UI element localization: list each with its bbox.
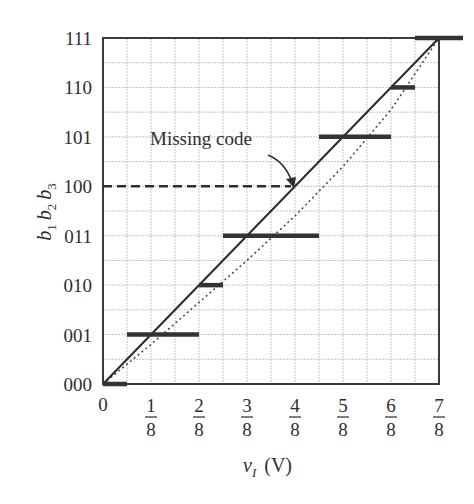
x-tick-fraction: 78 — [433, 395, 445, 440]
svg-text:5: 5 — [338, 395, 348, 416]
ylabel-b1: b — [33, 231, 55, 241]
svg-text:8: 8 — [146, 419, 156, 440]
y-tick-labels: 000001010011100101110111 — [64, 28, 93, 395]
adc-transfer-chart: 000001010011100101110111 018283848586878… — [0, 0, 474, 504]
y-tick-label: 110 — [64, 77, 92, 98]
ylabel-b3: b — [33, 190, 55, 200]
svg-text:3: 3 — [242, 395, 252, 416]
annotation-text: Missing code — [150, 128, 252, 149]
svg-text:8: 8 — [194, 419, 204, 440]
svg-text:8: 8 — [290, 419, 300, 440]
svg-text:b1b2b3: b1b2b3 — [33, 183, 59, 241]
arrow-icon — [268, 155, 292, 182]
svg-text:7: 7 — [434, 395, 444, 416]
x-tick-label: 0 — [98, 394, 108, 415]
xlabel-unit: (V) — [264, 454, 292, 477]
x-tick-fraction: 58 — [337, 395, 349, 440]
y-axis-title: b1b2b3 — [33, 183, 59, 241]
svg-text:vI(V): vI(V) — [243, 454, 292, 480]
svg-text:1: 1 — [146, 395, 156, 416]
y-tick-label: 101 — [64, 127, 93, 148]
y-tick-label: 111 — [65, 28, 92, 49]
svg-text:8: 8 — [242, 419, 252, 440]
svg-text:2: 2 — [194, 395, 204, 416]
xlabel-var: v — [243, 454, 252, 476]
y-tick-label: 001 — [64, 325, 93, 346]
svg-text:8: 8 — [386, 419, 396, 440]
x-tick-fraction: 68 — [385, 395, 397, 440]
x-tick-fraction: 18 — [145, 395, 157, 440]
ylabel-b2: b — [33, 210, 55, 220]
svg-text:8: 8 — [434, 419, 444, 440]
svg-text:4: 4 — [290, 395, 300, 416]
x-tick-fraction: 48 — [289, 395, 301, 440]
xlabel-sub: I — [251, 465, 257, 480]
svg-text:6: 6 — [386, 395, 396, 416]
y-tick-label: 100 — [64, 176, 93, 197]
y-tick-label: 011 — [64, 226, 92, 247]
x-axis-title: vI(V) — [243, 454, 292, 480]
svg-text:8: 8 — [338, 419, 348, 440]
y-tick-label: 010 — [64, 275, 93, 296]
y-tick-label: 000 — [64, 374, 93, 395]
x-tick-labels: 018283848586878 — [98, 394, 445, 440]
x-tick-fraction: 28 — [193, 395, 205, 440]
x-tick-fraction: 38 — [241, 395, 253, 440]
